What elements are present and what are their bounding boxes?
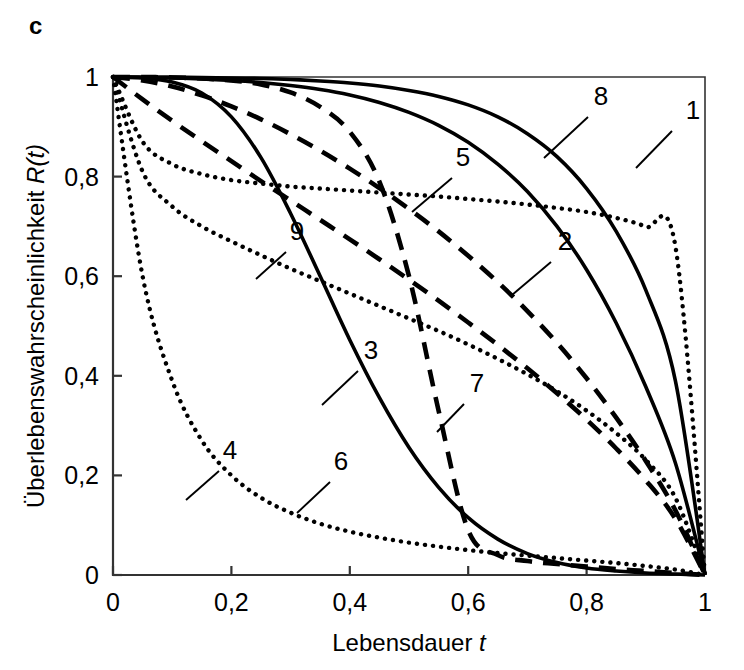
- y-axis-title-main: Überlebenswahrscheinlichkeit: [22, 184, 49, 508]
- curves-group: [113, 77, 705, 575]
- y-axis-title-variable: R(t): [22, 144, 49, 184]
- curve-label-leader-1: [636, 131, 672, 168]
- axis-group: 00,20,40,60,8100,20,40,60,81: [64, 63, 712, 616]
- curve-label-4: 4: [223, 435, 237, 465]
- x-axis-tick-label: 0,6: [451, 588, 486, 616]
- x-axis-title: Lebensdauer t: [332, 629, 487, 656]
- curve-label-leader-7: [437, 404, 464, 432]
- curve-label-6: 6: [334, 446, 348, 476]
- y-axis-tick-label: 0,2: [64, 461, 99, 489]
- curve-label-leader-8: [544, 117, 588, 158]
- curve-label-leader-4: [186, 471, 219, 500]
- y-axis-title: Überlebenswahrscheinlichkeit R(t): [22, 144, 49, 508]
- x-axis-tick-label: 0,2: [214, 588, 249, 616]
- figure-panel-c: c 00,20,40,60,8100,20,40,60,81 123456789…: [0, 0, 744, 670]
- curve-label-5: 5: [456, 142, 470, 172]
- x-axis-title-main: Lebensdauer: [332, 629, 479, 656]
- y-axis-tick-label: 1: [85, 63, 99, 91]
- curve-label-2: 2: [558, 226, 572, 256]
- curve-label-leader-3: [322, 371, 358, 405]
- chart-plot: 00,20,40,60,8100,20,40,60,81 123456789 L…: [0, 0, 744, 670]
- curve-label-leader-9: [256, 252, 286, 279]
- x-axis-tick-label: 0,8: [569, 588, 604, 616]
- y-axis-tick-label: 0,6: [64, 262, 99, 290]
- x-axis-title-variable: t: [479, 629, 487, 656]
- x-axis-tick-label: 0,4: [332, 588, 367, 616]
- curve-8: [113, 77, 705, 575]
- x-axis-tick-label: 0: [106, 588, 120, 616]
- curve-label-leader-6: [297, 482, 330, 513]
- curve-label-1: 1: [686, 95, 700, 125]
- y-axis-tick-label: 0: [85, 561, 99, 589]
- curve-label-3: 3: [364, 335, 378, 365]
- curve-label-leader-2: [512, 262, 551, 295]
- y-axis-tick-label: 0,8: [64, 163, 99, 191]
- curve-label-9: 9: [290, 216, 304, 246]
- y-axis-tick-label: 0,4: [64, 362, 99, 390]
- curve-labels-group: 123456789: [186, 81, 700, 513]
- x-axis-tick-label: 1: [698, 588, 712, 616]
- curve-label-8: 8: [594, 81, 608, 111]
- curve-label-7: 7: [470, 368, 484, 398]
